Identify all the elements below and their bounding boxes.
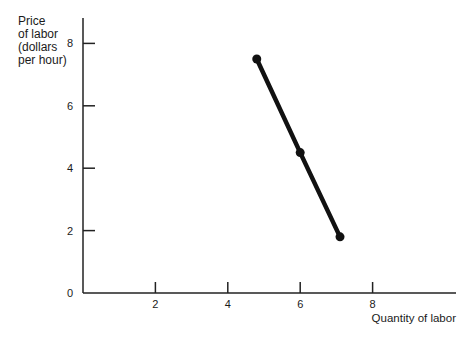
x-tick-label: 6 xyxy=(297,298,303,310)
y-tick-label: 2 xyxy=(67,225,73,237)
y-tick-label: 4 xyxy=(67,162,73,174)
data-point xyxy=(252,55,261,64)
x-tick-label: 2 xyxy=(152,298,158,310)
x-tick-label: 8 xyxy=(370,298,376,310)
y-tick-label: 0 xyxy=(67,287,73,299)
x-tick-label: 4 xyxy=(225,298,231,310)
data-point xyxy=(336,232,345,241)
chart: 246802468 Quantity of labor xyxy=(0,0,470,340)
x-axis-label: Quantity of labor xyxy=(372,312,457,324)
data-point xyxy=(296,148,305,157)
series-line xyxy=(257,59,340,237)
y-tick-label: 6 xyxy=(67,100,73,112)
y-tick-label: 8 xyxy=(67,37,73,49)
